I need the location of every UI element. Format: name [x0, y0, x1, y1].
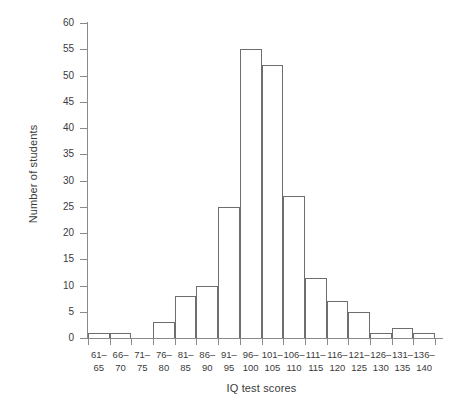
- histogram-bar: [392, 328, 414, 339]
- y-axis-tick: [80, 312, 87, 313]
- y-axis-tick-label: 50: [46, 71, 74, 81]
- y-axis-tick-label: 15: [46, 254, 74, 264]
- x-axis-tick: [305, 338, 306, 345]
- y-axis-tick-label: 35: [46, 149, 74, 159]
- y-axis-tick-label: 20: [46, 228, 74, 238]
- y-axis-tick: [80, 233, 87, 234]
- y-axis-tick: [80, 207, 87, 208]
- histogram-figure: Number of students IQ test scores 051015…: [0, 0, 459, 409]
- histogram-bar: [348, 312, 370, 338]
- histogram-bar: [413, 333, 435, 338]
- x-axis-tick: [240, 338, 241, 345]
- histogram-bar: [327, 301, 349, 338]
- y-axis-tick: [80, 76, 87, 77]
- y-axis-tick: [80, 102, 87, 103]
- y-axis-tick-label: 5: [46, 307, 74, 317]
- histogram-bar: [262, 65, 284, 338]
- y-axis-tick-label: 0: [46, 333, 74, 343]
- x-axis-tick: [153, 338, 154, 345]
- y-axis-tick-label: 30: [46, 176, 74, 186]
- histogram-bar: [218, 207, 240, 338]
- x-axis-tick: [218, 338, 219, 345]
- x-axis-tick: [131, 338, 132, 345]
- y-axis-title: Number of students: [27, 74, 39, 274]
- histogram-bar: [110, 333, 132, 338]
- y-axis-tick-label: 25: [46, 202, 74, 212]
- histogram-bar: [305, 278, 327, 338]
- x-axis-tick: [327, 338, 328, 345]
- histogram-bar: [240, 49, 262, 338]
- plot-area: [88, 23, 435, 338]
- y-axis-tick-label: 10: [46, 281, 74, 291]
- y-axis-tick-label: 40: [46, 123, 74, 133]
- x-axis-tick: [110, 338, 111, 345]
- x-axis-tick: [413, 338, 414, 345]
- x-axis-tick: [348, 338, 349, 345]
- x-axis-tick: [196, 338, 197, 345]
- x-axis-title: IQ test scores: [88, 382, 435, 394]
- y-axis-tick: [80, 23, 87, 24]
- x-axis-tick: [392, 338, 393, 345]
- y-axis-tick: [80, 154, 87, 155]
- y-axis-tick: [80, 128, 87, 129]
- histogram-bar: [370, 333, 392, 338]
- histogram-bar: [175, 296, 197, 338]
- histogram-bar: [153, 322, 175, 338]
- x-axis-tick: [370, 338, 371, 345]
- x-axis-tick: [435, 338, 436, 345]
- histogram-bar: [196, 286, 218, 339]
- x-axis-tick: [88, 338, 89, 345]
- histogram-bar: [88, 333, 110, 338]
- x-axis-tick: [283, 338, 284, 345]
- y-axis-tick: [80, 49, 87, 50]
- histogram-bar: [283, 196, 305, 338]
- x-axis-tick: [262, 338, 263, 345]
- y-axis-tick-label: 55: [46, 44, 74, 54]
- y-axis-tick-label: 45: [46, 97, 74, 107]
- y-axis-tick: [80, 286, 87, 287]
- y-axis-tick-label: 60: [46, 18, 74, 28]
- y-axis-tick: [80, 338, 87, 339]
- y-axis-tick: [80, 181, 87, 182]
- y-axis-tick: [80, 259, 87, 260]
- x-axis-tick: [175, 338, 176, 345]
- x-axis-tick-label: 136– 140: [408, 349, 440, 374]
